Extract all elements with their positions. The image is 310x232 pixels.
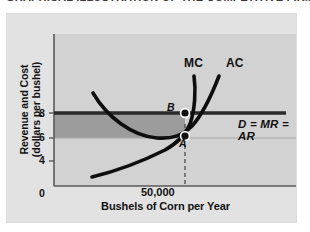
ac-curve-label: AC (226, 56, 244, 70)
x-axis-title: Bushels of Corn per Year (7, 200, 296, 212)
figure-caption: GRAPHICAL ILLUSTRATION OF THE COMPETITIV… (6, 0, 310, 3)
point-b-label: B (167, 101, 175, 113)
point-a-label: A (179, 137, 187, 149)
plot-background (54, 34, 296, 186)
point-b-marker (181, 109, 188, 116)
figure-panel: Revenue and Cost (dollars per bushel) 8 … (7, 14, 296, 222)
caption-strip: GRAPHICAL ILLUSTRATION OF THE COMPETITIV… (0, 0, 310, 10)
mc-curve-label: MC (184, 56, 203, 70)
profit-shaded-region (54, 113, 185, 138)
demand-line-label: D = MR = AR (238, 118, 296, 142)
